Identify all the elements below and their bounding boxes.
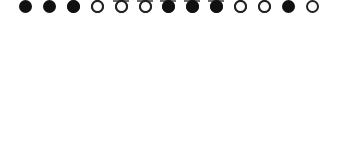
filled-circle-icon (67, 0, 80, 13)
filled-circle-icon (210, 0, 223, 13)
open-circle-icon (234, 0, 247, 13)
open-circle-icon (91, 0, 104, 13)
filled-circle-icon (162, 0, 175, 13)
open-circle-icon (258, 0, 271, 13)
filled-circle-icon (282, 0, 295, 13)
open-circle-icon (115, 0, 128, 13)
filled-circle-icon (186, 0, 199, 13)
filled-circle-icon (19, 0, 32, 13)
triangle-diagram (0, 0, 338, 160)
filled-circle-icon (43, 0, 56, 13)
open-circle-icon (306, 0, 319, 13)
open-circle-icon (139, 0, 152, 13)
